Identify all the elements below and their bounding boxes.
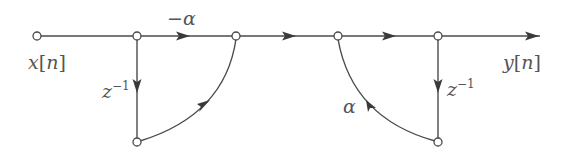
- output-index: n: [521, 51, 533, 73]
- delay-base: z: [447, 78, 457, 100]
- branch-node: [133, 32, 141, 40]
- output-label: y[n]: [503, 53, 541, 72]
- signal-flow-graph: [0, 0, 570, 159]
- delay-label-left: z−1: [102, 80, 130, 101]
- gain-label-feedback: α: [343, 97, 356, 116]
- bracket-close: ]: [533, 51, 540, 73]
- sum-node: [334, 32, 342, 40]
- arrow-curve-icon: [366, 100, 376, 112]
- output-var: y: [503, 51, 514, 73]
- input-label: x[n]: [28, 53, 66, 72]
- feedforward-curve: [140, 39, 236, 141]
- delay-node: [434, 138, 442, 146]
- input-index: n: [46, 51, 58, 73]
- branch-node: [434, 32, 442, 40]
- gain-text: α: [343, 95, 356, 117]
- input-var: x: [28, 51, 39, 73]
- delay-label-right: z−1: [447, 78, 475, 99]
- gain-text: −α: [167, 7, 196, 29]
- feedback-curve: [338, 39, 435, 141]
- gain-label-top: −α: [167, 9, 196, 28]
- delay-node: [133, 138, 141, 146]
- delay-exp: −1: [112, 79, 130, 93]
- sum-node: [232, 32, 240, 40]
- delay-base: z: [102, 80, 112, 102]
- input-node: [33, 32, 41, 40]
- delay-exp: −1: [457, 77, 475, 91]
- bracket-close: ]: [58, 51, 65, 73]
